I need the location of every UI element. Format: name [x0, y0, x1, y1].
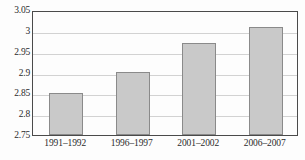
x-axis: 1991–19921996–19972001–20022006–2007 — [32, 138, 298, 154]
y-axis-tick-label: 2.9 — [2, 69, 30, 79]
bar-chart: 2.752.82.852.92.9533.05 1991–19921996–19… — [0, 0, 305, 160]
x-axis-tick-label: 1996–1997 — [111, 138, 153, 149]
bar — [116, 72, 150, 135]
y-axis-tick-label: 2.8 — [2, 110, 30, 120]
bar — [249, 27, 283, 135]
bar — [49, 93, 83, 135]
y-axis: 2.752.82.852.92.9533.05 — [0, 0, 30, 160]
y-axis-tick-label: 3 — [2, 27, 30, 37]
x-axis-tick-label: 2006–2007 — [244, 138, 286, 149]
bar — [182, 43, 216, 135]
y-axis-tick-label: 2.95 — [2, 48, 30, 58]
x-axis-tick-label: 1991–1992 — [44, 138, 86, 149]
y-axis-tick-label: 3.05 — [2, 6, 30, 16]
y-axis-tick-label: 2.75 — [2, 131, 30, 141]
bars-group — [33, 12, 297, 135]
x-axis-tick-label: 2001–2002 — [177, 138, 219, 149]
y-axis-tick-label: 2.85 — [2, 90, 30, 100]
plot-area — [32, 11, 298, 136]
